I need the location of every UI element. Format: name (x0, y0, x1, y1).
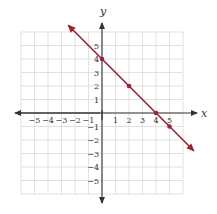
x-tick-label: −5 (29, 116, 41, 125)
y-tick-label: 1 (94, 96, 99, 105)
y-tick-label: −1 (87, 123, 99, 132)
coordinate-plane: −5−4−3−2−112345−5−4−3−2−112345 x y (0, 0, 217, 214)
data-point (100, 57, 105, 62)
y-tick-label: −4 (87, 163, 99, 172)
chart-svg: −5−4−3−2−112345−5−4−3−2−112345 x y (0, 0, 217, 214)
data-point (127, 84, 132, 89)
y-tick-label: 2 (94, 82, 99, 91)
data-series (68, 25, 194, 151)
y-tick-label: −5 (87, 177, 99, 186)
x-tick-label: 3 (140, 116, 145, 125)
y-axis-label: y (99, 5, 107, 18)
x-tick-label: 2 (126, 116, 131, 125)
x-tick-label: 4 (153, 116, 158, 125)
x-tick-label: −2 (69, 116, 81, 125)
y-tick-label: 5 (94, 42, 99, 51)
x-tick-label: −4 (42, 116, 54, 125)
x-tick-label: 1 (113, 116, 118, 125)
y-tick-label: 3 (94, 69, 99, 78)
plotted-line (68, 25, 194, 151)
x-tick-label: −3 (56, 116, 68, 125)
data-point (167, 124, 172, 129)
x-axis-label: x (201, 107, 208, 120)
y-tick-label: −3 (87, 150, 99, 159)
data-point (154, 111, 159, 116)
y-tick-label: −2 (87, 136, 99, 145)
